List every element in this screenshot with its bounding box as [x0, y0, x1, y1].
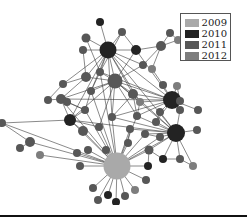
- node-2010: [144, 162, 152, 170]
- node-2011: [176, 155, 184, 163]
- node-2011: [176, 97, 184, 105]
- node-2011: [124, 139, 132, 147]
- node-2011: [81, 106, 89, 114]
- node-2011: [194, 106, 202, 114]
- node-2011: [44, 96, 52, 104]
- legend-swatch: [185, 41, 199, 49]
- node-2011: [78, 126, 88, 136]
- node-2011: [139, 61, 147, 69]
- legend-item-2010: 2010: [185, 28, 227, 39]
- legend-swatch: [185, 19, 199, 27]
- node-2010: [96, 18, 104, 26]
- node-2011: [84, 146, 92, 154]
- node-2011: [87, 87, 95, 95]
- node-2009: [104, 153, 131, 180]
- edge: [86, 38, 100, 72]
- bottom-rule: [0, 215, 247, 217]
- node-2011: [159, 81, 167, 89]
- node-2011: [141, 130, 149, 138]
- nodes: [0, 18, 202, 205]
- node-2011: [156, 41, 166, 51]
- node-2011: [156, 133, 164, 141]
- node-2011: [108, 113, 116, 121]
- node-2011: [102, 146, 110, 154]
- node-2011: [82, 34, 91, 43]
- node-2011: [152, 118, 160, 126]
- node-2011: [76, 162, 84, 170]
- node-2011: [145, 146, 154, 155]
- node-2011: [128, 89, 138, 99]
- node-2011: [79, 46, 87, 54]
- node-2010: [104, 191, 112, 199]
- node-2011: [121, 192, 129, 200]
- node-2011: [118, 28, 126, 36]
- node-2012: [173, 82, 181, 90]
- node-2012: [131, 186, 139, 194]
- node-2010: [131, 45, 141, 55]
- edge: [61, 99, 172, 100]
- edge: [2, 120, 70, 123]
- node-2011: [16, 144, 24, 152]
- node-2010: [112, 198, 120, 205]
- node-2011: [89, 184, 97, 192]
- legend-swatch: [185, 52, 199, 60]
- legend-item-2012: 2012: [185, 50, 227, 61]
- node-2011: [73, 149, 81, 157]
- node-2011: [95, 123, 103, 131]
- node-2011: [63, 98, 71, 106]
- node-2012: [136, 98, 144, 106]
- legend-label: 2011: [202, 39, 227, 50]
- legend: 2009 2010 2011 2012: [180, 13, 231, 61]
- node-2011: [193, 126, 201, 134]
- node-2011: [156, 108, 164, 116]
- node-2010: [64, 114, 76, 126]
- legend-item-2011: 2011: [185, 39, 227, 50]
- node-2011: [108, 74, 123, 89]
- node-2011: [59, 80, 67, 88]
- node-2010: [100, 42, 117, 59]
- edge: [136, 50, 172, 100]
- node-2011: [81, 72, 91, 82]
- legend-label: 2010: [202, 28, 227, 39]
- node-2010: [159, 155, 167, 163]
- edge: [2, 123, 30, 142]
- node-2012: [36, 151, 44, 159]
- node-2012: [189, 162, 197, 170]
- node-2011: [133, 112, 141, 120]
- node-2011: [96, 68, 104, 76]
- node-2011: [126, 125, 134, 133]
- node-2011: [176, 106, 184, 114]
- node-2011: [25, 137, 35, 147]
- node-2010: [167, 124, 185, 142]
- legend-label: 2009: [202, 17, 227, 28]
- legend-label: 2012: [202, 50, 227, 61]
- node-2011: [166, 29, 174, 37]
- legend-swatch: [185, 30, 199, 38]
- legend-item-2009: 2009: [185, 17, 227, 28]
- node-2012: [148, 65, 156, 73]
- node-2011: [0, 119, 6, 127]
- node-2011: [94, 196, 102, 204]
- node-2011: [142, 176, 150, 184]
